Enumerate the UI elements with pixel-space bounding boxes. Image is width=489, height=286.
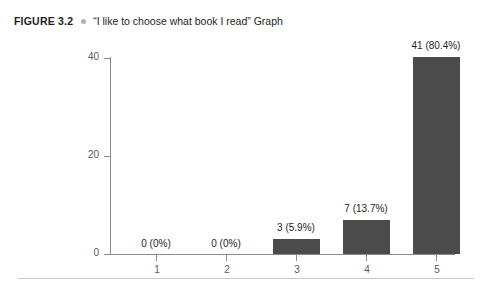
y-axis-tick-20: 20 [104, 156, 110, 157]
x-axis-tick-label-2: 2 [207, 264, 247, 275]
y-axis-tick-label-20: 20 [88, 149, 99, 160]
bar-value-label-5: 41 (80.4%) [391, 40, 481, 51]
bar-category-3 [273, 239, 320, 254]
x-axis-line [110, 254, 455, 255]
x-axis-tick-5 [436, 255, 437, 261]
bar-value-label-4: 7 (13.7%) [321, 203, 411, 214]
y-axis-tick-label-0: 0 [93, 247, 99, 258]
y-axis-tick-0: 0 [104, 254, 110, 255]
y-axis-tick-label-40: 40 [88, 51, 99, 62]
x-axis-tick-1 [156, 255, 157, 261]
bar-category-5 [413, 57, 460, 254]
x-axis-tick-4 [366, 255, 367, 261]
bar-category-4 [343, 220, 390, 254]
y-axis-line [110, 57, 111, 255]
y-axis-tick-40: 40 [104, 58, 110, 59]
x-axis-tick-label-1: 1 [137, 264, 177, 275]
bottom-divider [18, 278, 474, 279]
x-axis-tick-label-4: 4 [347, 264, 387, 275]
bar-value-label-3: 3 (5.9%) [251, 222, 341, 233]
bar-chart: 40 20 0 0 (0%) 1 0 (0%) 2 3 (5.9%) 3 7 (… [0, 0, 489, 286]
x-axis-tick-label-5: 5 [417, 264, 457, 275]
x-axis-tick-3 [296, 255, 297, 261]
x-axis-tick-2 [226, 255, 227, 261]
x-axis-tick-label-3: 3 [277, 264, 317, 275]
bar-value-label-2: 0 (0%) [181, 238, 271, 249]
